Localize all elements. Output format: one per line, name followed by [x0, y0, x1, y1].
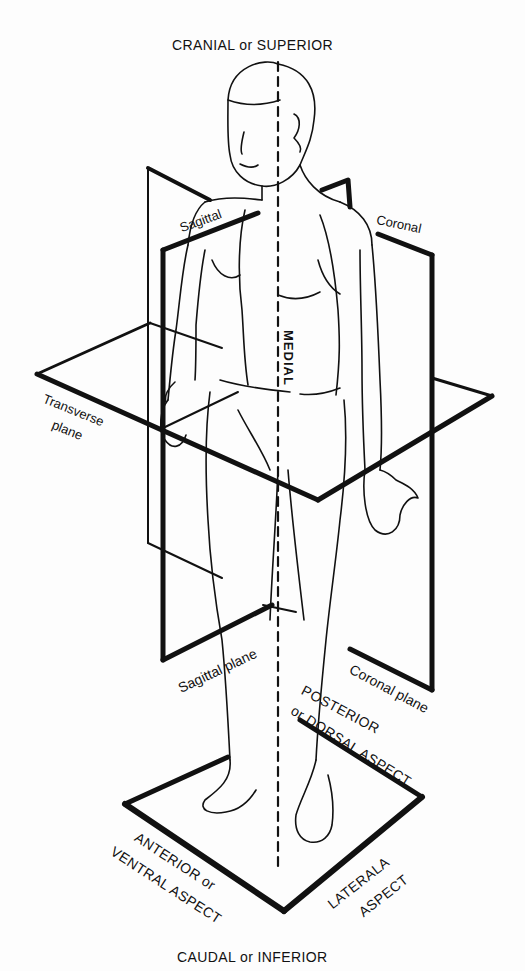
- diagram-drawing: [0, 0, 525, 971]
- coronal-plane: [322, 180, 432, 690]
- medial-label: MEDIAL: [281, 330, 295, 386]
- sagittal-plane: [148, 168, 296, 660]
- title-top-label: CRANIAL or SUPERIOR: [172, 38, 333, 53]
- transverse-plane: [37, 323, 492, 500]
- anatomical-planes-diagram: CRANIAL or SUPERIOR Sagittal Coronal MED…: [0, 0, 525, 971]
- title-bottom-label: CAUDAL or INFERIOR: [177, 950, 328, 965]
